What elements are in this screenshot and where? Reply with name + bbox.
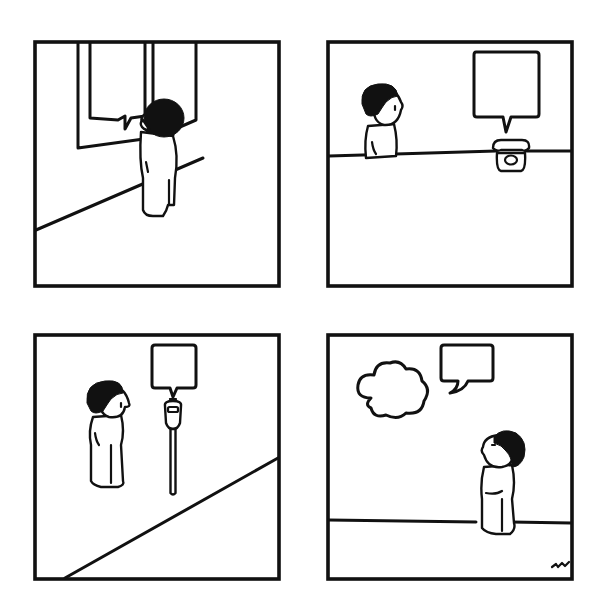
artist-signature xyxy=(552,562,569,567)
speech-bubble xyxy=(441,345,493,393)
panel-frame xyxy=(328,42,572,286)
comic-panel-2: Boy peers over a counter at a rotary tel… xyxy=(326,40,576,290)
speech-bubble xyxy=(90,43,145,129)
wall-floor-line xyxy=(36,158,203,230)
parking-meter xyxy=(165,399,181,495)
comic-panel-1: Boy standing facing a wall with a tall f… xyxy=(33,40,283,290)
wall-sign xyxy=(78,43,196,148)
floor-line xyxy=(329,520,571,523)
boy-character xyxy=(362,84,403,158)
panel-frame xyxy=(328,335,572,579)
boy-character xyxy=(87,381,130,487)
speech-bubble xyxy=(152,345,196,397)
thought-cloud xyxy=(358,362,428,418)
comic-panel-4: Boy looks up at an empty cloud and an em… xyxy=(326,333,576,583)
panel-frame xyxy=(35,335,279,579)
comic-panel-3: Boy looks at a parking meter; an empty s… xyxy=(33,333,283,583)
boy-character xyxy=(481,431,525,534)
speech-bubble xyxy=(474,52,539,132)
boy-character xyxy=(140,99,184,216)
telephone xyxy=(493,140,529,171)
